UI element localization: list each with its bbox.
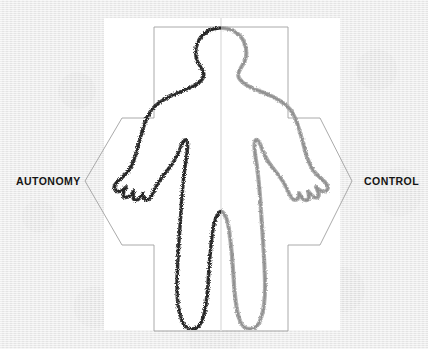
axis-label-autonomy: AUTONOMY [16, 176, 81, 187]
double-headed-arrow [85, 27, 352, 331]
arrow-outline-path [85, 27, 352, 331]
figure-root: AUTONOMY CONTROL [0, 0, 428, 349]
axis-label-control: CONTROL [364, 176, 419, 187]
